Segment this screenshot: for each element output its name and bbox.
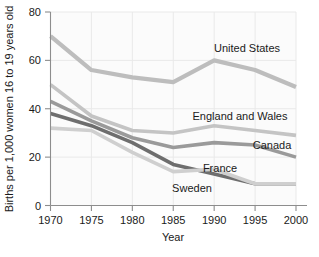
y-tick-label: 20 bbox=[29, 151, 41, 163]
chart-svg: 020406080 1970197519801985199019952000 U… bbox=[0, 0, 319, 257]
teen-birth-rate-line-chart: 020406080 1970197519801985199019952000 U… bbox=[0, 0, 319, 257]
series-label-sweden: Sweden bbox=[172, 182, 212, 194]
x-tick-label: 1995 bbox=[243, 214, 267, 226]
x-tick-label: 1985 bbox=[161, 214, 185, 226]
y-axis-ticks: 020406080 bbox=[29, 6, 51, 212]
series-label-england-and-wales: England and Wales bbox=[193, 110, 288, 122]
x-tick-label: 1990 bbox=[202, 214, 226, 226]
x-axis-title: Year bbox=[162, 231, 185, 243]
y-tick-label: 40 bbox=[29, 103, 41, 115]
y-axis-title: Births per 1,000 women 16 to 19 years ol… bbox=[3, 6, 15, 213]
x-tick-label: 1980 bbox=[120, 214, 144, 226]
series-label-canada: Canada bbox=[253, 139, 292, 151]
y-tick-label: 0 bbox=[35, 200, 41, 212]
y-tick-label: 60 bbox=[29, 54, 41, 66]
x-tick-label: 1970 bbox=[38, 214, 62, 226]
y-tick-label: 80 bbox=[29, 6, 41, 18]
x-tick-label: 1975 bbox=[79, 214, 103, 226]
series-label-france: France bbox=[203, 162, 237, 174]
x-axis-ticks: 1970197519801985199019952000 bbox=[38, 206, 308, 227]
series-label-united-states: United States bbox=[214, 42, 281, 54]
x-tick-label: 2000 bbox=[284, 214, 308, 226]
